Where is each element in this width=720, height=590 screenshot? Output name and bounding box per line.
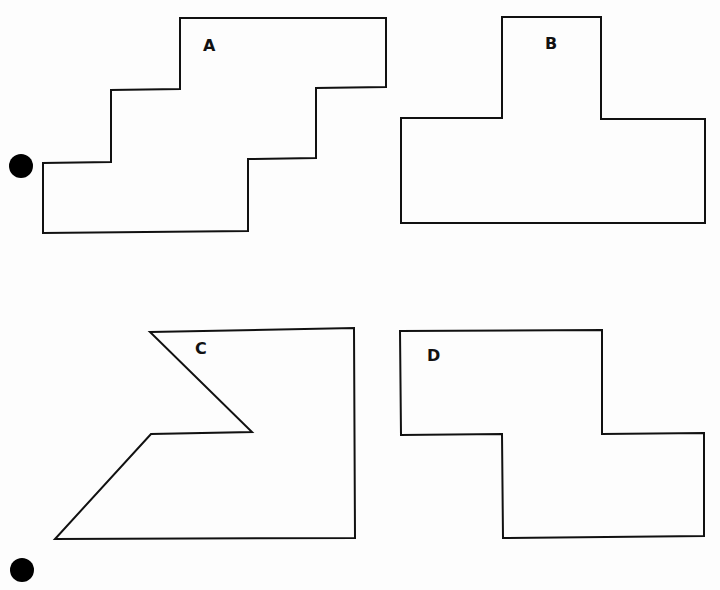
shape-a-label: A: [203, 36, 216, 55]
shape-d-outline: [400, 330, 704, 538]
shape-b: B: [401, 17, 705, 223]
shape-d: D: [400, 330, 704, 538]
shape-b-label: B: [545, 34, 557, 53]
shape-a: A: [43, 18, 386, 233]
shape-c: C: [55, 328, 355, 539]
marker-dot-top: [9, 154, 33, 178]
shape-c-outline: [55, 328, 355, 539]
shape-d-label: D: [427, 346, 440, 365]
shapes-diagram: A B C D: [0, 0, 720, 590]
marker-dot-bottom: [10, 558, 34, 582]
shape-c-label: C: [195, 339, 207, 358]
